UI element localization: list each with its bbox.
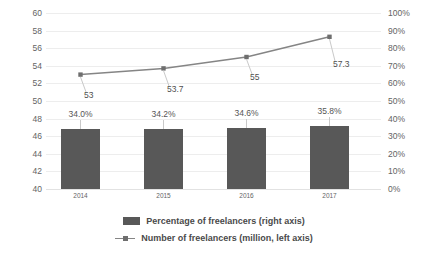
legend-item-label: Percentage of freelancers (right axis) <box>146 216 305 226</box>
legend-item-label: Number of freelancers (million, left axi… <box>141 233 313 243</box>
line-marker-2015[interactable] <box>161 66 165 70</box>
line-marker-2017[interactable] <box>327 35 331 39</box>
line-marker-2014[interactable] <box>78 72 82 76</box>
point-value-label-2014: 53 <box>84 91 93 100</box>
x-axis-tick-2017: 2017 <box>297 192 362 199</box>
x-axis-tick-2015: 2015 <box>131 192 196 199</box>
point-value-label-2016: 55 <box>250 73 259 82</box>
legend-line-marker-icon <box>115 234 135 243</box>
x-axis-tick-2016: 2016 <box>214 192 279 199</box>
point-value-label-2015: 53.7 <box>167 85 184 94</box>
legend-square-swatch-icon <box>123 217 140 225</box>
chart-legend: Percentage of freelancers (right axis) N… <box>0 216 428 243</box>
legend-item-percentage[interactable]: Percentage of freelancers (right axis) <box>123 216 305 226</box>
point-value-label-2017: 57.3 <box>333 60 350 69</box>
chart-container: 60 58 56 54 52 50 48 46 44 42 40 100% 90… <box>0 0 428 261</box>
legend-item-number[interactable]: Number of freelancers (million, left axi… <box>115 233 313 243</box>
line-number-of-freelancers[interactable] <box>81 37 330 75</box>
point-label-leader <box>330 39 336 61</box>
x-axis-tick-2014: 2014 <box>48 192 113 199</box>
line-marker-2016[interactable] <box>244 55 248 59</box>
